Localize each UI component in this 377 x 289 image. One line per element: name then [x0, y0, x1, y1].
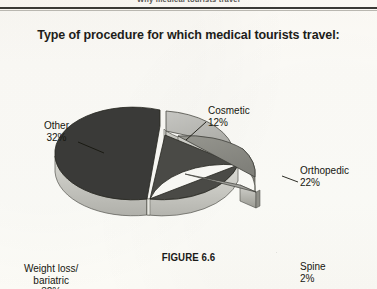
header-rule-secondary — [0, 10, 377, 11]
callout-weightloss-name: Weight loss/ — [24, 263, 78, 274]
callout-other: Other 32% — [44, 120, 69, 143]
callout-other-name: Other — [44, 120, 69, 131]
header-rule — [0, 7, 377, 9]
figure-caption: FIGURE 6.6 — [23, 251, 355, 263]
callout-other-pct: 32% — [44, 132, 69, 144]
callout-orthopedic: Orthopedic 22% — [300, 165, 349, 188]
running-header: Why medical tourists travel — [0, 0, 377, 4]
callout-cosmetic: Cosmetic 12% — [208, 105, 250, 128]
leader-line-orthopedic — [282, 176, 298, 182]
figure-page: Why medical tourists travel Type of proc… — [0, 0, 377, 289]
chart-title: Type of procedure for which medical tour… — [0, 28, 377, 42]
callout-spine: Spine 2% — [300, 261, 326, 284]
callout-orthopedic-name: Orthopedic — [300, 165, 349, 176]
callout-cosmetic-pct: 12% — [208, 117, 250, 129]
callout-weightloss-name2: bariatric — [24, 275, 78, 287]
callout-weightloss: Weight loss/ bariatric 32% — [24, 263, 78, 289]
pie-chart-svg — [0, 48, 377, 253]
callout-cosmetic-name: Cosmetic — [208, 105, 250, 116]
callout-orthopedic-pct: 22% — [300, 177, 349, 189]
callout-spine-pct: 2% — [300, 273, 326, 285]
pie-chart: Cosmetic 12% Orthopedic 22% Spine 2% Wei… — [0, 48, 377, 253]
